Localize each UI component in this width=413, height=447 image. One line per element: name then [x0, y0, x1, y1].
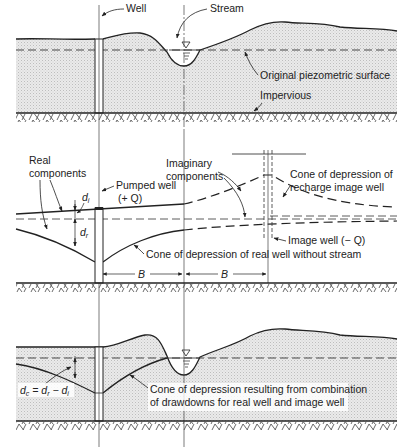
svg-text:recharge image well: recharge image well [290, 181, 384, 193]
label-piezometric-surface: Original piezometric surface [260, 69, 390, 81]
label-well: Well [126, 2, 146, 14]
svg-text:(+ Q): (+ Q) [118, 192, 142, 204]
label-combined-cone: Cone of depression resulting from combin… [150, 383, 367, 395]
svg-text:of drawdowns for real well and: of drawdowns for real well and image wel… [150, 396, 344, 408]
label-impervious: Impervious [260, 89, 311, 101]
svg-text:dr: dr [80, 226, 89, 239]
label-cone-real: Cone of depression of real well without … [146, 248, 362, 260]
svg-text:B: B [221, 268, 228, 280]
panel-real-and-image-wells: di dr B B Real components Imaginary comp… [16, 130, 397, 310]
svg-text:components: components [29, 167, 86, 179]
panel-combined-drawdown: dc = dr − di Cone of depression resultin… [16, 310, 397, 447]
label-stream: Stream [210, 2, 244, 14]
label-pumped-well: Pumped well [116, 179, 176, 191]
svg-text:B: B [138, 268, 145, 280]
label-real-components: Real [29, 154, 51, 166]
label-cone-recharge-image: Cone of depression of [290, 168, 393, 180]
panel-original-conditions: Well Stream Original piezometric surface… [16, 2, 397, 130]
impervious-hatch [16, 114, 397, 122]
aquifer-fill-right [103, 22, 397, 113]
pumped-well [95, 208, 103, 283]
well-image-diagram: Well Stream Original piezometric surface… [0, 0, 413, 447]
label-image-well: Image well (− Q) [288, 234, 365, 246]
water-level-icon [182, 42, 190, 48]
svg-text:di: di [82, 191, 90, 204]
label-imaginary-components: Imaginary [166, 157, 213, 169]
